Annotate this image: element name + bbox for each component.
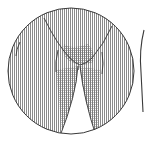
adjacent-figure-edge [140, 30, 144, 112]
inset-content [0, 0, 146, 143]
illustration-canvas: garment-detail-inset [0, 0, 146, 143]
inset-illustration [0, 0, 146, 143]
